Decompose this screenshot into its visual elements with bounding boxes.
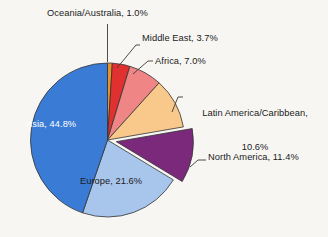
slice-label-north-america: North America, 11.4% <box>208 152 299 163</box>
slice-label-oceania: Oceania/Australia, 1.0% <box>47 8 148 19</box>
slice-label-latin-america-line1: Latin America/Caribbean, <box>185 108 325 119</box>
slice-label-europe: Europe, 21.6% <box>80 176 142 187</box>
slice-label-africa: Africa, 7.0% <box>155 56 206 67</box>
slice-label-asia: Asia, 44.8% <box>26 119 76 130</box>
pie-slices-group <box>30 63 193 217</box>
pie-chart-figure: Oceania/Australia, 1.0% Middle East, 3.7… <box>0 0 328 237</box>
slice-label-middle-east: Middle East, 3.7% <box>142 33 218 44</box>
